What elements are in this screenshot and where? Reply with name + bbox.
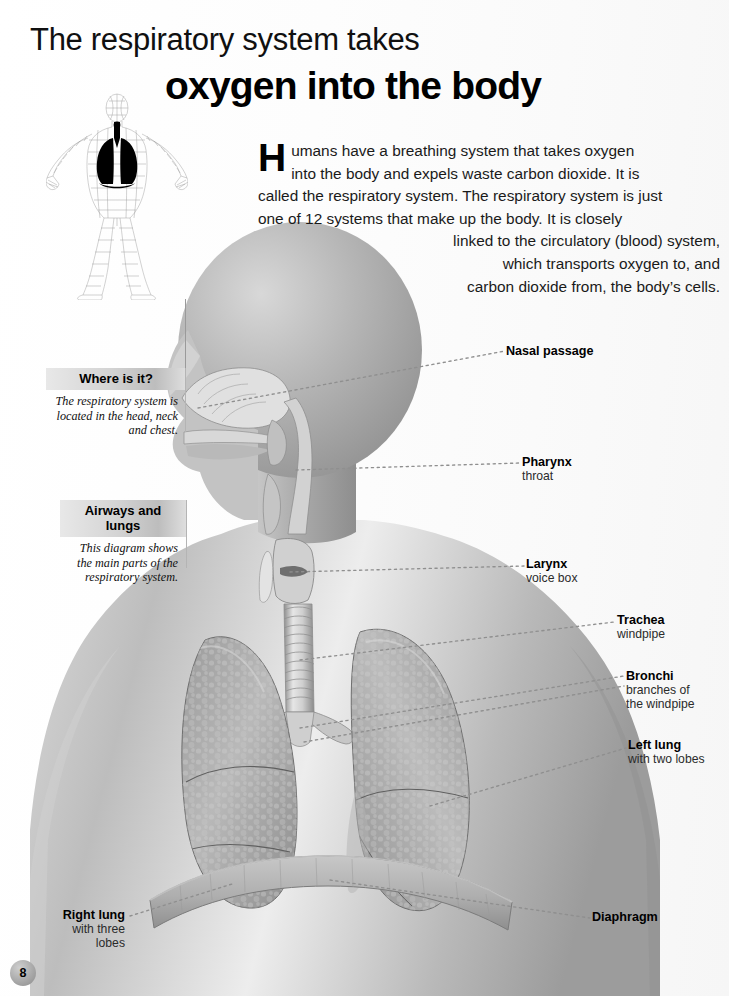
page-title-line2: oxygen into the body [165,64,541,108]
callout-where-rule [185,368,186,432]
label-larynx: Larynx voice box [526,557,578,585]
intro-line-5: linked to the circulatory (blood) system… [258,230,720,253]
label-diaphragm: Diaphragm [592,910,658,924]
label-pharynx: Pharynx throat [522,455,572,483]
label-bronchi: Bronchi branches of the windpipe [626,669,694,712]
callout-where-is-it: Where is it? The respiratory system is l… [46,368,186,438]
page-number-badge: 8 [10,960,36,986]
label-diaphragm-title: Diaphragm [592,910,658,924]
intro-line-4: one of 12 systems that make up the body.… [258,208,720,231]
label-bronchi-sub2: the windpipe [626,697,694,711]
label-nasal-passage-title: Nasal passage [506,344,594,358]
intro-line-7: carbon dioxide from, the body’s cells. [258,276,720,299]
label-nasal-passage: Nasal passage [506,344,594,358]
label-larynx-title: Larynx [526,557,578,571]
label-trachea: Trachea windpipe [617,613,665,641]
label-trachea-sub: windpipe [617,627,665,641]
label-left-lung-sub: with two lobes [628,752,705,766]
where-is-it-connector-line [185,299,186,369]
label-right-lung-sub2: lobes [27,936,125,950]
label-left-lung: Left lung with two lobes [628,738,705,766]
trachea [284,604,314,712]
wireframe-lungs-highlight [97,122,138,189]
label-right-lung: Right lung with three lobes [27,908,125,951]
label-pharynx-sub: throat [522,469,572,483]
intro-line-3: called the respiratory system. The respi… [258,185,720,208]
drop-cap: H [258,141,286,175]
label-bronchi-sub: branches of [626,683,694,697]
label-right-lung-title: Right lung [27,908,125,922]
wireframe-body-figure [46,92,188,300]
intro-paragraph: H umans have a breathing system that tak… [258,140,720,298]
intro-line-6: which transports oxygen to, and [258,253,720,276]
label-pharynx-title: Pharynx [522,455,572,469]
label-left-lung-title: Left lung [628,738,705,752]
label-bronchi-title: Bronchi [626,669,694,683]
callout-airways-rule [186,500,187,568]
label-larynx-sub: voice box [526,571,578,585]
intro-line-2: into the body and expels waste carbon di… [258,163,720,186]
callout-where-body: The respiratory system is located in the… [46,390,186,438]
callout-airways-heading: Airways and lungs [60,500,186,537]
callout-airways-body: This diagram shows the main parts of the… [60,537,186,585]
label-trachea-title: Trachea [617,613,665,627]
callout-airways-and-lungs: Airways and lungs This diagram shows the… [60,500,186,585]
intro-line-1: umans have a breathing system that takes… [258,140,720,163]
callout-where-heading: Where is it? [46,368,186,390]
page-title-line1: The respiratory system takes [30,22,420,58]
label-right-lung-sub: with three [27,922,125,936]
